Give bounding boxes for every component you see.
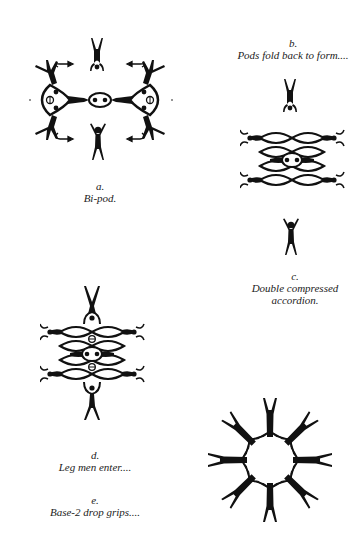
figure-c-caption: c. Double compressed accordion. (240, 270, 350, 306)
accordion-formation-illustration (240, 78, 345, 258)
figure-c-label-line1: Double compressed (240, 282, 350, 294)
figure-d-letter: d. (40, 449, 150, 461)
figure-b-label: Pods fold back to form.... (228, 49, 358, 61)
figure-d-caption: d. Leg men enter.... (40, 449, 150, 473)
figure-e-caption: e. Base-2 drop grips.... (35, 494, 155, 518)
leg-men-formation-illustration (40, 282, 145, 422)
figure-a-letter: a. (60, 180, 140, 192)
figure-b-letter: b. (228, 37, 358, 49)
star-formation-illustration (195, 385, 345, 535)
figure-b-caption: b. Pods fold back to form.... (228, 37, 358, 61)
figure-a-bipod (10, 15, 190, 170)
figure-a-caption: a. Bi-pod. (60, 180, 140, 204)
figure-c-accordion (240, 78, 345, 258)
figure-e-label: Base-2 drop grips.... (35, 506, 155, 518)
figure-a-label: Bi-pod. (60, 192, 140, 204)
figure-e-star (195, 385, 345, 535)
figure-d-label: Leg men enter.... (40, 461, 150, 473)
figure-c-letter: c. (240, 270, 350, 282)
bipod-formation-illustration (10, 15, 190, 170)
figure-d-leg-men (40, 282, 145, 422)
figure-e-letter: e. (35, 494, 155, 506)
figure-c-label-line2: accordion. (240, 294, 350, 306)
